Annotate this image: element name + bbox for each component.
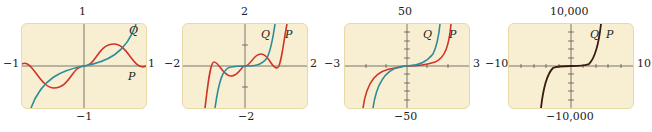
y-min-label: −2 [238,110,254,123]
curve-label-p: P [449,28,456,41]
y-max-label: 2 [241,5,248,18]
curve-label-q: Q [590,28,599,41]
plot-area [22,24,146,108]
x-min-label: −10 [485,57,508,70]
graph-panel-2: 2 −2 2 −2 Q P [162,0,327,132]
curve-label-p: P [128,70,135,83]
x-max-label: 2 [310,57,317,70]
curve-label-q: Q [423,28,432,41]
curve-label-p: P [285,28,292,41]
y-min-label: −1 [76,110,92,123]
curve-label-q: Q [129,24,138,37]
x-min-label: −3 [324,57,340,70]
curve-label-p: P [606,28,613,41]
graph-panel-1: 1 −1 1 −1 Q P [0,0,165,132]
x-max-label: 3 [473,57,480,70]
plot-area [509,24,633,108]
y-max-label: 50 [398,5,412,18]
x-max-label: 10 [637,57,651,70]
y-max-label: 10,000 [550,5,589,18]
graph-screen [508,23,634,109]
x-max-label: 1 [148,57,155,70]
graph-panel-4: 10,000 −10 10 −10,000 Q P [482,0,652,132]
y-max-label: 1 [79,5,86,18]
y-min-label: −50 [394,110,417,123]
y-min-label: −10,000 [546,110,594,123]
x-min-label: −1 [3,57,19,70]
x-min-label: −2 [164,57,180,70]
graph-panel-3: 50 −3 3 −50 Q P [322,0,487,132]
curve-label-q: Q [261,28,270,41]
